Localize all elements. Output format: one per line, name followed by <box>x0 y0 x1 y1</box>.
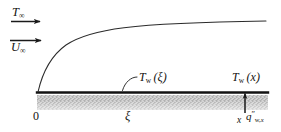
free-stream-velocity-subscript: ∞ <box>20 46 26 55</box>
wall-temperature-x-symbol: T <box>232 70 239 84</box>
wall-temperature-xi-symbol: T <box>139 70 146 84</box>
origin-label: 0 <box>33 110 39 122</box>
wall-temperature-xi-arg-text: (ξ) <box>154 70 167 84</box>
wall-temperature-x-arg-text: (x) <box>247 70 260 84</box>
wall-temperature-x-label: Tw (x) <box>232 71 260 84</box>
free-stream-velocity-symbol: U <box>11 40 20 54</box>
wall-hatch-band <box>37 95 268 110</box>
xi-coordinate-label: ξ <box>125 110 130 123</box>
wall-temperature-xi-label: Tw (ξ) <box>139 71 167 84</box>
x-station-label: x <box>237 116 241 126</box>
figure-vector-layer <box>0 0 281 132</box>
free-stream-temperature-label: T∞ <box>12 6 25 19</box>
thermal-boundary-layer-figure: T∞ U∞ 0 ξ Tw (ξ) Tw (x) x q″w,x <box>0 0 281 132</box>
wall-heat-flux-label: q″w,x <box>246 110 264 123</box>
wall-heat-flux-subscript-x: x <box>261 116 264 123</box>
free-stream-velocity-label: U∞ <box>11 41 26 54</box>
free-stream-temperature-symbol: T <box>12 5 19 19</box>
wall-temperature-xi-leader <box>123 77 138 91</box>
free-stream-temperature-subscript: ∞ <box>19 11 25 20</box>
